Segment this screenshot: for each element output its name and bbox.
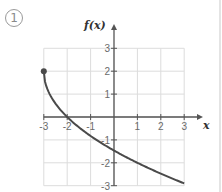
x-tick-label: -2: [63, 121, 72, 132]
y-tick-label: 3: [104, 43, 110, 54]
x-tick-label: -3: [39, 121, 48, 132]
y-tick-label: -2: [101, 158, 110, 169]
function-graph: -3-2-1123321-1-2-3 f(x) x: [0, 0, 222, 192]
y-axis-label: f(x): [83, 19, 106, 32]
x-tick-label: 1: [135, 121, 141, 132]
y-tick-label: -3: [101, 181, 110, 192]
closed-endpoint: [41, 68, 47, 74]
x-tick-label: 2: [158, 121, 164, 132]
x-tick-label: 3: [181, 121, 187, 132]
x-axis-label: x: [202, 119, 210, 132]
y-tick-label: 1: [104, 89, 110, 100]
x-tick-label: -1: [86, 121, 95, 132]
y-tick-label: 2: [104, 66, 110, 77]
